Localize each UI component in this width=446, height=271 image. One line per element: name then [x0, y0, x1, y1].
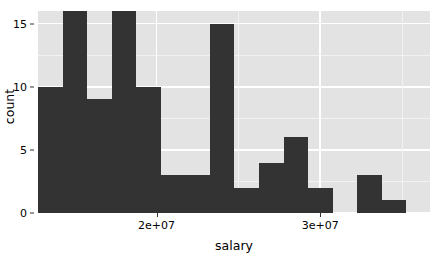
histogram-bar	[63, 11, 88, 213]
x-axis-title: salary	[38, 238, 430, 253]
plot-panel	[38, 11, 430, 213]
y-axis-title: count	[0, 0, 20, 213]
y-axis-tick-group: 051015	[18, 0, 34, 271]
histogram-bar	[284, 137, 309, 213]
histogram-bar	[210, 24, 235, 213]
histogram-bar	[259, 163, 284, 214]
histogram-bar	[87, 99, 112, 213]
histogram-bar	[112, 11, 137, 213]
histogram-bar	[382, 200, 407, 213]
y-axis-tick-mark	[30, 23, 34, 24]
gridline-minor-vertical	[238, 11, 239, 213]
y-axis-title-text: count	[3, 89, 18, 124]
y-axis-tick-label: 5	[20, 144, 27, 155]
x-axis-title-text: salary	[215, 238, 253, 253]
y-axis-tick-label: 0	[20, 208, 27, 219]
histogram-bar	[357, 175, 382, 213]
histogram-bar	[308, 188, 333, 213]
histogram-bar	[234, 188, 259, 213]
y-axis-tick-mark	[30, 213, 34, 214]
x-axis-tick-label: 2e+07	[138, 219, 175, 232]
y-axis-tick-label: 15	[13, 18, 27, 29]
gridline-major-vertical	[319, 11, 321, 213]
x-axis-tick-group: 2e+073e+07	[38, 219, 430, 235]
gridline-minor-vertical	[402, 11, 403, 213]
histogram-bar	[161, 175, 186, 213]
y-axis-tick-label: 10	[13, 81, 27, 92]
histogram-chart: count 051015 2e+073e+07 salary	[0, 0, 446, 271]
histogram-bar	[136, 87, 161, 213]
x-axis-tick-mark	[157, 213, 158, 217]
x-axis-tick-mark	[320, 213, 321, 217]
x-axis-tick-label: 3e+07	[302, 219, 339, 232]
histogram-bar	[38, 87, 63, 213]
y-axis-tick-mark	[30, 86, 34, 87]
histogram-bar	[185, 175, 210, 213]
y-axis-tick-mark	[30, 149, 34, 150]
